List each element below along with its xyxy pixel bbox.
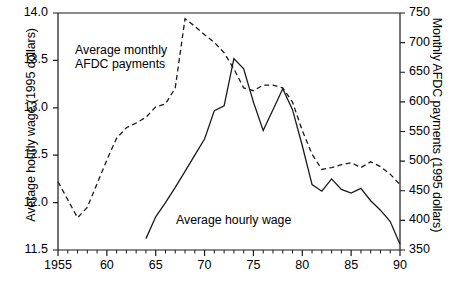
x-axis-tick-label: 85 [326,258,376,272]
right-axis-tick-label: 450 [409,183,451,197]
x-axis-major-ticks [58,250,400,256]
x-axis-tick-label: 70 [180,258,230,272]
right-axis-tick-label: 550 [409,124,451,138]
left-axis-tick-label: 13.0 [6,100,48,114]
x-axis-tick-label: 1955 [33,258,83,272]
chart-figure: Average hourly wage (1995 dollars) Month… [0,0,463,281]
right-axis-ticks [400,13,405,250]
right-axis-tick-label: 350 [409,242,451,256]
x-axis-tick-label: 80 [277,258,327,272]
right-axis-tick-label: 700 [409,35,451,49]
right-axis-tick-label: 600 [409,94,451,108]
right-axis-tick-label: 750 [409,5,451,19]
left-axis-tick-label: 13.5 [6,52,48,66]
x-axis-tick-label: 60 [82,258,132,272]
left-axis-tick-label: 14.0 [6,5,48,19]
right-axis-tick-label: 650 [409,64,451,78]
right-axis-tick-label: 500 [409,153,451,167]
left-axis-tick-label: 11.5 [6,242,48,256]
series-annotation-average-hourly-wage: Average hourly wage [176,214,291,228]
x-axis-tick-label: 65 [131,258,181,272]
series-annotation-afdc-payments: Average monthly AFDC payments [75,44,167,71]
left-axis-tick-label: 12.5 [6,147,48,161]
x-axis-tick-label: 90 [375,258,425,272]
left-axis-tick-label: 12.0 [6,195,48,209]
x-axis-tick-label: 75 [228,258,278,272]
chart-plot-area [0,0,463,281]
left-axis-ticks [53,13,58,250]
right-axis-tick-label: 400 [409,212,451,226]
